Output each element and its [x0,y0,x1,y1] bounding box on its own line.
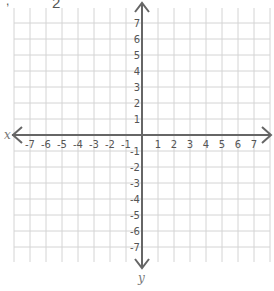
x-tick-label: -3 [89,139,99,150]
axes [12,3,271,268]
x-tick-label: 7 [251,139,257,150]
x-tick-label: -7 [25,139,35,150]
x-tick-label: 2 [171,139,177,150]
y-tick-label: -7 [130,242,140,253]
y-tick-label: 5 [134,50,140,61]
x-tick-label: 5 [219,139,225,150]
x-tick-label: -6 [41,139,51,150]
x-tick-label: 1 [155,139,161,150]
y-tick-label: -6 [130,226,140,237]
x-tick-label: 4 [203,139,209,150]
x-tick-label: -5 [57,139,67,150]
y-tick-label: -2 [130,162,140,173]
x-tick-label: 6 [235,139,241,150]
x-tick-label: -4 [73,139,83,150]
y-tick-label: 7 [134,18,140,29]
y-tick-label: 1 [134,114,140,125]
y-tick-label: -3 [130,178,140,189]
y-tick-label: 6 [134,34,140,45]
x-tick-label: 3 [187,139,193,150]
coordinate-plane: -7-6-5-4-3-2-11234567 7654321-1-2-3-4-5-… [0,0,274,291]
y-tick-label: 3 [134,82,140,93]
y-tick-label: -1 [130,146,140,157]
y-tick-label: 2 [134,98,140,109]
y-tick-label: -5 [130,210,140,221]
y-tick-label: 4 [134,66,140,77]
x-axis-label: x [4,128,11,142]
y-axis-label: y [137,271,145,285]
x-tick-label: -2 [105,139,115,150]
y-tick-label: -4 [130,194,140,205]
